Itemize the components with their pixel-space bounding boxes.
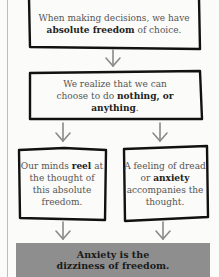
conclusion-line-1: Anxiety is the [57,249,170,260]
node-text-plain: . [136,103,139,113]
arrow-minds-reel-to-conclusion [56,222,70,239]
node-text-plain: Our minds [21,161,72,171]
node-text-plain: When making decisions, we have [38,13,189,23]
node-text: A feeling of dread or anxiety accompanie… [124,160,206,208]
arrow-to-dread-anxiety [153,123,167,141]
node-text-plain: of choice. [135,25,182,35]
arrow-dread-to-conclusion [156,222,170,239]
arrow-to-nothing-or-anything [106,50,120,66]
node-text-plain: accompanies the thought. [127,185,204,207]
conclusion-text: Anxiety is the dizziness of freedom. [57,249,170,271]
node-nothing-or-anything: We realize that we can choose to do noth… [30,74,200,118]
arrow-to-minds-reel [56,123,70,141]
conclusion-line-2: dizziness of freedom. [57,260,170,271]
node-dread-anxiety: A feeling of dread or anxiety accompanie… [124,150,206,218]
node-absolute-freedom: When making decisions, we have absolute … [30,2,198,46]
node-text-bold: reel [72,161,92,171]
node-text: Our minds reel at the thought of this ab… [20,160,104,208]
node-text-bold: anxiety [153,173,189,183]
node-text: We realize that we can choose to do noth… [30,78,200,114]
conclusion-banner: Anxiety is the dizziness of freedom. [16,243,210,277]
node-minds-reel: Our minds reel at the thought of this ab… [20,150,104,218]
node-text-bold: absolute freedom [47,25,135,35]
node-text: When making decisions, we have absolute … [30,12,198,36]
